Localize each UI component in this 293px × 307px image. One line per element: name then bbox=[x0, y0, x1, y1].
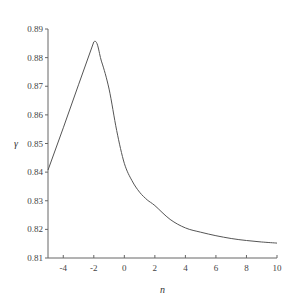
y-tick-label: 0.85 bbox=[27, 139, 43, 149]
gamma-curve bbox=[48, 41, 277, 243]
y-tick-label: 0.84 bbox=[27, 167, 43, 177]
x-tick-label: -2 bbox=[90, 263, 98, 273]
x-tick-label: 6 bbox=[214, 263, 219, 273]
x-tick-label: -4 bbox=[60, 263, 68, 273]
y-tick-label: 0.82 bbox=[27, 224, 43, 234]
y-tick-label: 0.83 bbox=[27, 196, 43, 206]
x-tick-label: 4 bbox=[183, 263, 188, 273]
x-tick-label: 0 bbox=[122, 263, 127, 273]
y-tick-label: 0.81 bbox=[27, 253, 43, 263]
y-tick-label: 0.89 bbox=[27, 24, 43, 34]
y-tick-label: 0.86 bbox=[27, 110, 43, 120]
x-tick-label: 2 bbox=[153, 263, 158, 273]
x-tick-label: 10 bbox=[273, 263, 283, 273]
x-tick-label: 8 bbox=[244, 263, 249, 273]
x-axis-label: n bbox=[160, 284, 165, 295]
y-axis-label: γ bbox=[14, 138, 19, 149]
axes: -4-202468100.810.820.830.840.850.860.870… bbox=[27, 24, 282, 273]
y-tick-label: 0.88 bbox=[27, 53, 43, 63]
line-chart: -4-202468100.810.820.830.840.850.860.870… bbox=[0, 0, 293, 307]
y-tick-label: 0.87 bbox=[27, 81, 43, 91]
